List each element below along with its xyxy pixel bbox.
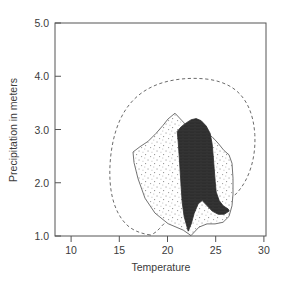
y-tick-label-4: 1.0 — [34, 230, 49, 242]
x-tick-label-0: 10 — [65, 244, 77, 256]
x-axis-title: Temperature — [132, 261, 191, 273]
x-tick-label-1: 15 — [113, 244, 125, 256]
y-tick-label-0: 5.0 — [34, 17, 49, 29]
y-tick-label-2: 3.0 — [34, 124, 49, 136]
x-tick-label-4: 30 — [258, 244, 270, 256]
x-tick-label-3: 25 — [210, 244, 222, 256]
y-tick-label-3: 2.0 — [34, 177, 49, 189]
chart-figure: 5.0 4.0 3.0 2.0 1.0 10 15 20 25 30 Tempe… — [0, 0, 286, 285]
x-tick-marks — [71, 236, 264, 242]
y-axis-title: Precipitation in meters — [7, 78, 19, 182]
chart-svg: 5.0 4.0 3.0 2.0 1.0 10 15 20 25 30 Tempe… — [0, 0, 286, 285]
x-tick-label-2: 20 — [162, 244, 174, 256]
y-tick-label-1: 4.0 — [34, 70, 49, 82]
